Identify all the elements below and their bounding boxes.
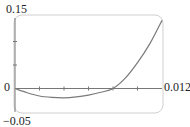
y-tick-label-top: 0.15	[6, 2, 27, 16]
x-tick-label-right: 0.012	[164, 80, 190, 94]
plot-frame	[14, 15, 163, 113]
y-tick-label-bottom: −0.05	[3, 114, 31, 127]
series-curve	[15, 20, 162, 98]
chart: 0.15 0 −0.05 0.012	[0, 0, 190, 127]
y-tick-label-zero: 0	[4, 80, 10, 94]
